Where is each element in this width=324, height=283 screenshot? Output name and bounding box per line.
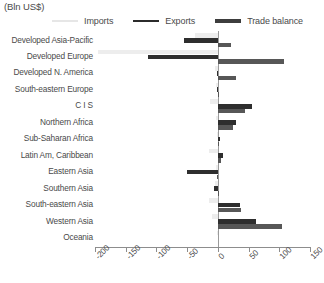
legend-swatch-imports-icon xyxy=(52,20,78,22)
bar-group xyxy=(95,33,310,49)
bar-group xyxy=(95,82,310,98)
category-label: C I S xyxy=(0,100,93,110)
bar-group xyxy=(95,148,310,164)
legend-label-imports: Imports xyxy=(84,16,113,26)
bar-trade-balance xyxy=(217,175,218,180)
legend-label-trade-balance: Trade balance xyxy=(247,16,303,26)
bar-group xyxy=(95,115,310,131)
category-label: Northern Africa xyxy=(0,117,93,127)
category-label: Southern Asia xyxy=(0,183,93,193)
bar-imports xyxy=(209,198,218,203)
bar-imports xyxy=(210,99,218,104)
category-label: Developed Asia-Pacific xyxy=(0,35,93,45)
bar-group xyxy=(95,99,310,115)
category-label: Oceania xyxy=(0,232,93,242)
category-label: Sub-Saharan Africa xyxy=(0,133,93,143)
bar-trade-balance xyxy=(218,158,221,163)
bar-group xyxy=(95,181,310,197)
legend-item-imports: Imports xyxy=(52,16,113,26)
legend-item-trade-balance: Trade balance xyxy=(215,16,303,26)
chart-unit-title: (Bln US$) xyxy=(4,1,44,12)
bar-group xyxy=(95,198,310,214)
bar-imports xyxy=(217,231,218,236)
x-axis-tick-label: 0 xyxy=(216,251,226,261)
bar-trade-balance xyxy=(218,142,219,147)
bar-trade-balance xyxy=(218,109,246,114)
bar-trade-balance xyxy=(218,59,284,64)
category-label: South-eastern Asia xyxy=(0,199,93,209)
bar-group xyxy=(95,132,310,148)
legend-swatch-trade-balance-icon xyxy=(215,19,241,23)
bar-trade-balance xyxy=(218,191,219,196)
legend-swatch-exports-icon xyxy=(133,20,159,22)
bar-trade-balance xyxy=(218,125,233,130)
category-axis-labels: Developed Asia-PacificDeveloped EuropeDe… xyxy=(0,33,93,247)
bar-group xyxy=(95,49,310,65)
bar-group xyxy=(95,165,310,181)
legend-item-exports: Exports xyxy=(133,16,195,26)
category-label: Developed N. America xyxy=(0,67,93,77)
bar-imports xyxy=(209,149,218,154)
bar-group xyxy=(95,214,310,230)
bar-group xyxy=(95,231,310,247)
bar-group xyxy=(95,66,310,82)
bar-trade-balance xyxy=(218,43,231,48)
bar-trade-balance xyxy=(218,76,236,81)
category-label: Eastern Asia xyxy=(0,166,93,176)
category-label: Latin Am, Caribbean xyxy=(0,150,93,160)
legend-label-exports: Exports xyxy=(165,16,195,26)
category-label: South-eastern Europe xyxy=(0,84,93,94)
plot-area xyxy=(95,33,310,247)
category-label: Western Asia xyxy=(0,216,93,226)
bar-trade-balance xyxy=(218,92,219,97)
bar-trade-balance xyxy=(218,208,241,213)
bar-exports xyxy=(184,38,218,43)
bar-trade-balance xyxy=(218,224,283,229)
chart-legend: Imports Exports Trade balance xyxy=(52,14,318,28)
category-label: Developed Europe xyxy=(0,51,93,61)
bar-exports xyxy=(187,170,218,175)
bar-exports xyxy=(148,55,217,60)
